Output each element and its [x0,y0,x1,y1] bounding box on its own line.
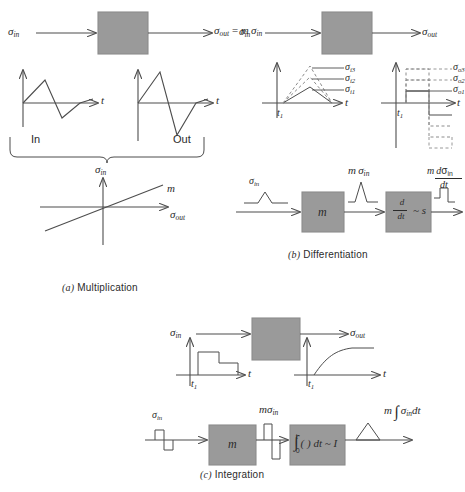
section-a-transfer-plot [40,178,168,245]
block-c [252,318,300,360]
label-a-waveform-in: In [31,134,40,145]
label-c-out-axis-t: t [383,368,386,379]
caption-b: (b) Differentiation [288,250,368,260]
pulse-out-b [434,188,455,202]
slope-line-a [45,185,163,231]
label-b-out-axis-t: t [457,97,460,108]
label-c-in-axis-t: t [248,368,251,379]
caption-a-text: Multiplication [77,282,138,293]
block-b [322,12,372,54]
section-a-block-diagram [36,12,212,54]
label-b-chain-output-num: m dσin [427,166,453,178]
label-c-input: σin [170,327,181,340]
label-c-gain-m: m [228,438,237,450]
caption-c-marker: (c) [200,469,212,480]
label-b-operator-tail: ~ s [413,205,426,216]
caption-a-marker: (a) [62,282,74,293]
section-b-block-diagram [265,12,420,54]
section-b-chain [236,182,462,232]
section-b-output-plot [381,63,455,148]
label-a-slope-m: m [167,183,175,194]
label-a-in-axis-t: t [101,95,104,106]
gain-block-a [98,12,148,54]
label-a-plot-x: σout [170,209,185,222]
label-b-gain-m: m [318,206,327,218]
label-b-input: σin [239,26,250,39]
label-b-in-t1: t1 [277,108,283,120]
label-b-chain-output-den: dt [440,180,448,190]
caption-c: (c) Integration [200,470,264,480]
label-b-operator-d: d [392,198,412,207]
section-c-input-plot [176,338,245,386]
pulse-out-c [356,423,380,440]
label-c-integral-operator: ∫t0( ) dt ~ I [294,433,337,454]
label-b-chain-mid: m σin [348,165,369,178]
label-b-out-t1: t1 [397,108,403,120]
label-b-output: σout [422,26,437,39]
pulse-mid-c [264,424,280,459]
label-b-in-axis-t: t [345,97,348,108]
caption-b-text: Differentiation [303,249,368,260]
label-c-chain-output: m ∫ σindt [384,404,421,420]
section-a-out-waveform [138,70,213,141]
label-b-operator-dt: dt [391,212,411,221]
label-b-chain-input: σin [249,176,259,188]
section-c-chain [145,423,412,465]
caption-c-text: Integration [215,469,264,480]
pulse-in-b [258,192,272,203]
label-b-sigma-o1: σo1 [453,84,465,96]
pulse-mid-b [355,182,367,202]
section-a-in-waveform [23,70,98,127]
label-c-chain-input: σin [152,410,162,422]
label-c-out-t1: t1 [308,379,314,391]
section-c-output-plot [294,338,380,386]
label-a-plot-y: σin [95,164,106,177]
label-a-input: σin [8,26,19,39]
section-b-input-plot [262,63,344,118]
label-a-waveform-out: Out [173,134,191,145]
caption-b-marker: (b) [288,249,300,260]
label-c-in-t1: t1 [191,379,197,391]
caption-a: (a) Multiplication [62,283,138,293]
label-c-output: σout [350,327,365,340]
label-b-sigma-i1: σi1 [345,84,355,96]
label-c-chain-mid: mσin [259,404,278,417]
label-a-out-axis-t: t [216,95,219,106]
